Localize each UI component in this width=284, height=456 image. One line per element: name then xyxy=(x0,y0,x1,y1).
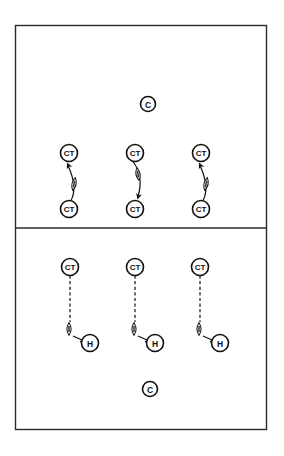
football-held xyxy=(67,323,71,336)
diagram-layer: CCTCTCTCTCTCTCTHCTHCTHC xyxy=(61,97,229,397)
receiver-top-0: CT xyxy=(61,145,78,162)
passer-bottom-1: CT xyxy=(127,201,144,218)
football-held xyxy=(197,323,201,336)
coach-bottom-label: C xyxy=(147,385,153,395)
football xyxy=(203,177,210,191)
kicker-0: CT xyxy=(62,259,79,276)
holder-2: H xyxy=(212,335,229,352)
arrow-head-icon xyxy=(196,161,204,169)
holder-0-label: H xyxy=(87,339,93,349)
passer-bottom-2-label: CT xyxy=(196,205,207,214)
receiver-top-1: CT xyxy=(127,145,144,162)
kicker-2-label: CT xyxy=(195,263,206,272)
kicker-0-label: CT xyxy=(65,263,76,272)
drill-diagram: CCTCTCTCTCTCTCTHCTHCTHC xyxy=(0,0,284,456)
receiver-top-2-label: CT xyxy=(196,149,207,158)
holder-hand-line xyxy=(203,336,212,340)
coach-top-label: C xyxy=(145,100,151,110)
kicker-1-label: CT xyxy=(130,263,141,272)
passer-bottom-2: CT xyxy=(193,201,210,218)
holder-1: H xyxy=(147,335,164,352)
kicker-1: CT xyxy=(127,259,144,276)
arrow-head-icon xyxy=(64,161,72,169)
kicker-2: CT xyxy=(192,259,209,276)
receiver-top-0-label: CT xyxy=(64,149,75,158)
football-held xyxy=(132,323,136,336)
receiver-top-1-label: CT xyxy=(130,149,141,158)
holder-2-label: H xyxy=(217,339,223,349)
coach-bottom: C xyxy=(143,382,158,397)
holder-hand-line xyxy=(138,336,147,340)
passer-bottom-1-label: CT xyxy=(130,205,141,214)
holder-1-label: H xyxy=(152,339,158,349)
football xyxy=(135,167,141,181)
coach-top: C xyxy=(141,97,156,112)
receiver-top-2: CT xyxy=(193,145,210,162)
passer-bottom-0: CT xyxy=(61,201,78,218)
passer-bottom-0-label: CT xyxy=(64,205,75,214)
holder-0: H xyxy=(82,335,99,352)
football xyxy=(71,177,78,191)
holder-hand-line xyxy=(73,336,82,340)
